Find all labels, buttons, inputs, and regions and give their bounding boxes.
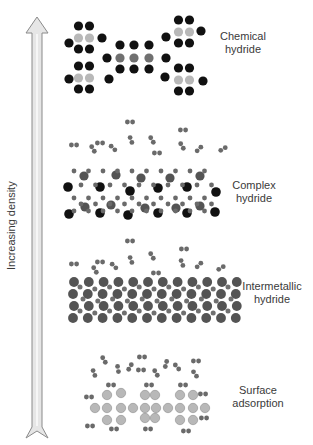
substrate-atom <box>188 415 197 424</box>
black-atom <box>144 40 153 49</box>
substrate-atom <box>102 415 111 424</box>
h2-molecule <box>126 362 133 371</box>
substrate-atom <box>140 403 149 412</box>
black-atom <box>185 38 194 47</box>
hydrogen-atom <box>115 209 120 214</box>
black-atom <box>74 84 83 93</box>
metal-atom <box>69 277 79 287</box>
substrate-atom <box>102 403 111 412</box>
hydrogen-atom <box>122 287 127 292</box>
black-atom <box>185 15 194 24</box>
hydrogen-atom <box>79 202 84 207</box>
label-line2: adsorption <box>226 397 290 410</box>
hydrogen-atom <box>137 309 142 314</box>
black-atom <box>85 61 94 70</box>
gray-atom <box>174 75 183 84</box>
h2-molecule <box>173 363 181 372</box>
metal-atom <box>84 301 94 311</box>
complex-hydride-lattice <box>63 120 227 220</box>
metal-atom <box>136 173 145 182</box>
substrate-atom <box>188 403 197 412</box>
black-atom <box>102 53 111 62</box>
h2-molecule <box>144 383 154 388</box>
metal-atom <box>99 301 109 311</box>
hydrogen-atom <box>226 309 231 314</box>
black-atom <box>144 64 153 73</box>
hydrogen-atom <box>166 202 171 207</box>
h2-molecule <box>178 128 188 133</box>
label-line2: hydride <box>224 192 284 205</box>
hydrogen-atom <box>226 285 231 290</box>
chemical-hydride-molecules <box>64 15 207 95</box>
gray-atom <box>85 33 94 42</box>
hydrogen-atom <box>92 287 97 292</box>
metal-atom <box>69 301 79 311</box>
metal-atom <box>68 289 78 299</box>
hydrogen-atom <box>137 202 142 207</box>
substrate-atom <box>116 415 125 424</box>
substrate-atom <box>90 403 99 412</box>
metal-atom <box>157 313 167 323</box>
hydrogen-atom <box>125 299 130 304</box>
hydrogen-atom <box>211 311 216 316</box>
gray-atom <box>85 73 94 82</box>
hydrogen-atom <box>184 299 189 304</box>
h2-molecule <box>89 144 96 153</box>
hydrogen-atom <box>199 297 204 302</box>
hydrogen-atom <box>196 309 201 314</box>
black-atom <box>85 21 94 30</box>
hydrogen-atom <box>72 209 77 214</box>
hydrogen-atom <box>229 297 234 302</box>
h2-molecule <box>125 239 135 244</box>
metal-atom <box>143 277 153 287</box>
hydrogen-atom <box>196 285 201 290</box>
substrate-atom <box>140 413 149 422</box>
h2-molecule <box>110 262 118 270</box>
label-line1: Complex <box>224 179 284 192</box>
black-atom <box>104 74 113 83</box>
hydrogen-atom <box>159 196 164 201</box>
gray-atom <box>129 53 138 62</box>
black-atom <box>64 74 73 83</box>
h2-molecule <box>128 255 135 265</box>
label-chemical-hydride: Chemical hydride <box>213 30 273 56</box>
hydrogen-atom <box>152 311 157 316</box>
metal-atom <box>188 277 198 287</box>
h2-molecule <box>69 262 79 267</box>
hydrogen-atom <box>180 183 185 188</box>
h2-molecule <box>148 251 155 260</box>
label-line1: Chemical <box>213 30 273 43</box>
hydrogen-atom <box>115 196 120 201</box>
metal-atom <box>216 289 226 299</box>
h2-molecule <box>91 368 98 378</box>
hydrogen-atom <box>181 287 186 292</box>
metal-atom <box>98 313 108 323</box>
hydrogen-atom <box>107 309 112 314</box>
hydrogen-atom <box>115 169 120 174</box>
hydrogen-atom <box>195 183 200 188</box>
h2-molecule <box>106 383 116 388</box>
h2-molecule <box>69 143 79 148</box>
metal-atom <box>128 301 138 311</box>
gray-atom <box>185 27 194 36</box>
h2-molecule <box>179 247 189 252</box>
h2-molecule <box>95 141 105 146</box>
black-atom <box>74 61 83 70</box>
metal-atom <box>211 187 221 197</box>
hydrogen-atom <box>169 297 174 302</box>
hydrogen-atom <box>81 297 86 302</box>
h2-molecule <box>109 144 117 152</box>
black-atom <box>129 40 138 49</box>
hydrogen-atom <box>166 309 171 314</box>
axis-label-container: Increasing density <box>11 222 21 232</box>
metal-atom <box>210 207 220 217</box>
hydrogen-atom <box>202 196 207 201</box>
hydrogen-atom <box>202 209 207 214</box>
metal-atom <box>202 301 212 311</box>
metal-atom <box>172 313 182 323</box>
hydrogen-atom <box>180 202 185 207</box>
h2-molecule <box>179 258 186 268</box>
hydrogen-atom <box>144 209 149 214</box>
metal-atom <box>201 313 211 323</box>
h2-molecule <box>178 383 188 388</box>
